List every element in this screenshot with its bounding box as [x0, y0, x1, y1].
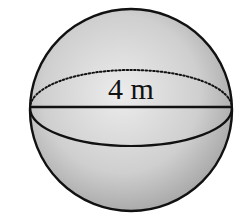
sphere-diagram: 4 m [0, 0, 242, 224]
diameter-label: 4 m [108, 72, 154, 105]
sphere-outline [30, 9, 232, 211]
